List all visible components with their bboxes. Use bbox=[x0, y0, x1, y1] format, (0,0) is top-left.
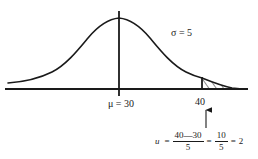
shaded-tail-region bbox=[196, 70, 256, 96]
formula-numerator-2: 10 bbox=[215, 131, 228, 141]
formula-fraction-1: 40—30 5 bbox=[173, 131, 204, 152]
formula-result: 2 bbox=[239, 137, 244, 146]
formula-fraction-2: 10 5 bbox=[215, 131, 228, 152]
formula-variable: u bbox=[155, 137, 160, 146]
x-value-label: 40 bbox=[195, 97, 205, 107]
formula-equals-3: = bbox=[231, 137, 236, 146]
formula-denominator-1: 5 bbox=[173, 141, 204, 152]
mu-label: μ = 30 bbox=[108, 99, 134, 109]
formula-denominator-2: 5 bbox=[215, 141, 228, 152]
formula-equals-2: = bbox=[207, 137, 212, 146]
formula-equals-1: = bbox=[165, 137, 170, 146]
bell-curve bbox=[8, 18, 246, 89]
sigma-label: σ = 5 bbox=[171, 28, 192, 38]
z-score-formula: u = 40—30 5 = 10 5 = 2 bbox=[155, 131, 243, 152]
formula-numerator-1: 40—30 bbox=[173, 131, 204, 141]
